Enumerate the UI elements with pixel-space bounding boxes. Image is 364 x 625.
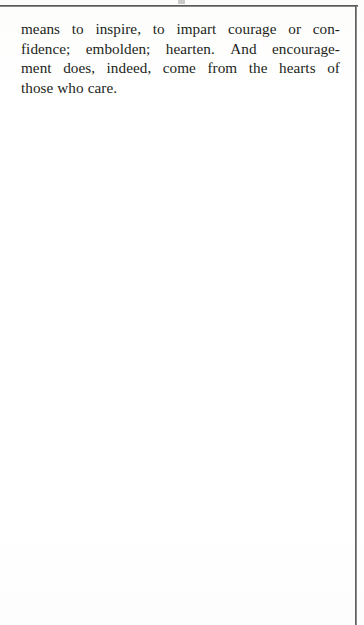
header-rule: [0, 5, 358, 7]
word: indeed,: [107, 58, 152, 78]
word: does,: [63, 58, 95, 78]
word: embolden;: [86, 39, 151, 59]
word: the: [249, 58, 268, 78]
word: hearten.: [166, 39, 215, 59]
text-line-1: means to inspire, to impart courage or c…: [21, 19, 340, 39]
scanned-page: means to inspire, to impart courage or c…: [0, 0, 364, 625]
word: con-: [313, 19, 340, 39]
word: from: [207, 58, 237, 78]
right-edge-rule: [355, 6, 357, 625]
cut-off-header-glyph: [178, 0, 185, 4]
text-line-3: ment does, indeed, come from the hearts …: [21, 58, 340, 78]
word: to: [72, 19, 84, 39]
word: inspire,: [95, 19, 141, 39]
word: of: [327, 58, 340, 78]
word: ment: [21, 58, 52, 78]
text-line-2: fidence; embolden; hearten. And encourag…: [21, 39, 340, 59]
word: hearts: [279, 58, 316, 78]
word: courage: [228, 19, 276, 39]
word: And: [230, 39, 256, 59]
body-text-block: means to inspire, to impart courage or c…: [21, 19, 340, 97]
word: come: [163, 58, 196, 78]
word: encourage-: [272, 39, 340, 59]
word: means: [21, 19, 60, 39]
word: fidence;: [21, 39, 70, 59]
word: to: [153, 19, 165, 39]
word: or: [288, 19, 301, 39]
word: impart: [176, 19, 216, 39]
text-line-4: those who care.: [21, 78, 340, 98]
